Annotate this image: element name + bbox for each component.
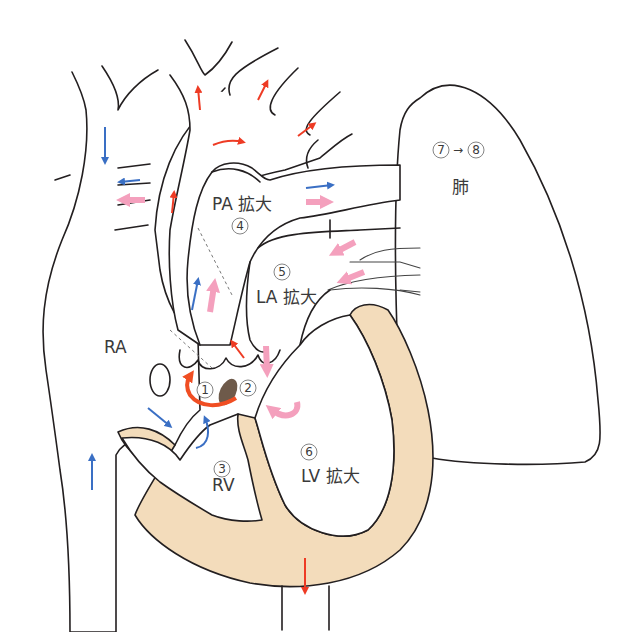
marker-4: 4 [232, 218, 248, 234]
aorta-branch-2 [229, 48, 278, 95]
svg-text:7: 7 [437, 143, 445, 157]
marker-1: 1 [197, 382, 213, 398]
label-lung: 肺 [452, 177, 469, 197]
svg-text:4: 4 [236, 219, 244, 233]
svg-text:5: 5 [278, 265, 286, 279]
innominate-vein [55, 175, 70, 180]
marker-6: 6 [301, 444, 317, 460]
aorta-branch-3 [270, 68, 298, 115]
label-ra: RA [104, 337, 127, 357]
pa-lower-branch [258, 228, 400, 248]
descending-aorta [282, 586, 329, 630]
pink-arrow-rvot [210, 286, 214, 312]
tricuspid-leaflet [150, 364, 170, 396]
marker-5: 5 [274, 264, 290, 280]
red-arrow-lvot [232, 342, 244, 358]
svg-text:2: 2 [244, 381, 252, 395]
aorta-branch-1 [185, 40, 232, 75]
label-la: LA 拡大 [256, 287, 317, 307]
svg-text:6: 6 [305, 445, 313, 459]
label-lv: LV 拡大 [301, 466, 360, 486]
pink-arrow-pv-2 [344, 272, 364, 280]
svg-text:8: 8 [472, 143, 480, 157]
label-pa: PA 拡大 [212, 194, 272, 214]
label-rv: RV [212, 475, 235, 495]
marker-8: 8 [468, 142, 484, 158]
marker-3: 3 [214, 461, 230, 477]
pink-arrow-mitral [266, 346, 267, 370]
svg-text:1: 1 [201, 383, 209, 397]
marker-2: 2 [240, 380, 256, 396]
heart-diagram: RA PA 拡大 LA 拡大 RV LV 拡大 肺 1 2 3 4 5 6 7 … [0, 0, 622, 632]
red-arrow-branch-2 [258, 82, 267, 100]
pink-arrow-pv-1 [336, 242, 355, 252]
svg-text:3: 3 [218, 462, 226, 476]
marker-7: 7 [433, 142, 449, 158]
marker-arrow: → [453, 143, 463, 157]
